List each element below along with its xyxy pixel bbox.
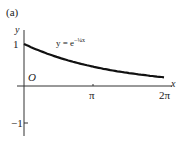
y-tick-label-neg1: −1 [11,118,23,129]
origin-label: O [28,72,36,83]
y-tick-label-1: 1 [13,39,19,50]
equation-label: y = e−¼x [56,37,85,48]
y-axis-label: y [15,25,19,35]
x-axis-label: x [171,79,175,89]
exp-curve [24,44,164,77]
x-tick-label-2pi: 2π [159,90,170,101]
x-tick-label-pi: π [89,90,95,101]
panel-label: (a) [6,7,18,18]
